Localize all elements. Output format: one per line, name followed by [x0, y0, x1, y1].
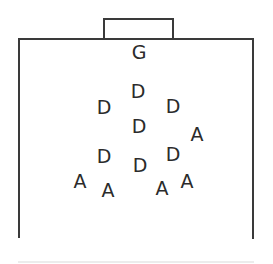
- position-attacker: A: [68, 171, 92, 191]
- field-right-line: [252, 38, 254, 239]
- position-goalkeeper: G: [127, 42, 151, 62]
- position-attacker: A: [96, 180, 120, 200]
- position-defender: D: [161, 144, 185, 164]
- position-defender: D: [127, 116, 151, 136]
- formation-diagram: G D D D D A D D D A A A A: [0, 0, 273, 264]
- field-top-line: [18, 38, 254, 40]
- position-defender: D: [161, 96, 185, 116]
- position-defender: D: [128, 155, 152, 175]
- position-defender: D: [92, 146, 116, 166]
- goal-box: [103, 18, 174, 40]
- position-attacker: A: [185, 124, 209, 144]
- field-left-line: [18, 38, 20, 238]
- position-defender: D: [92, 97, 116, 117]
- position-attacker: A: [150, 178, 174, 198]
- position-defender: D: [126, 81, 150, 101]
- position-attacker: A: [175, 171, 199, 191]
- bottom-baseline: [18, 261, 254, 263]
